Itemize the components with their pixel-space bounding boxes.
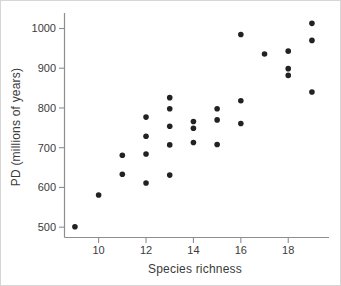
x-tick-label: 10 [93, 244, 105, 256]
data-point [143, 133, 149, 139]
y-tick-label: 900 [38, 62, 56, 74]
data-point [167, 123, 173, 129]
data-point [214, 142, 220, 148]
data-point [262, 51, 268, 57]
data-point [120, 152, 126, 158]
data-point [309, 38, 315, 44]
data-point [238, 32, 244, 38]
data-point [96, 192, 102, 198]
scatter-figure: 50060070080090010001012141618 PD (millio… [0, 0, 341, 286]
y-tick-label: 500 [38, 221, 56, 233]
data-point [143, 114, 149, 120]
data-point [309, 21, 315, 27]
data-point [191, 119, 197, 125]
x-tick-label: 16 [235, 244, 247, 256]
data-point [167, 106, 173, 112]
data-point [191, 125, 197, 131]
y-tick-label: 800 [38, 102, 56, 114]
data-point [285, 73, 291, 79]
y-tick-label: 600 [38, 181, 56, 193]
data-point [167, 95, 173, 101]
data-point [309, 89, 315, 95]
data-point [120, 172, 126, 178]
data-point [285, 66, 291, 72]
data-point [143, 180, 149, 186]
data-point [72, 224, 78, 230]
data-point [143, 151, 149, 157]
y-tick-label: 1000 [32, 22, 56, 34]
y-tick-label: 700 [38, 142, 56, 154]
data-point [167, 142, 173, 148]
x-tick-label: 14 [187, 244, 199, 256]
data-point [214, 106, 220, 112]
data-point [285, 48, 291, 54]
data-point [191, 140, 197, 146]
data-point [238, 98, 244, 104]
data-point [238, 121, 244, 127]
scatter-plot: 50060070080090010001012141618 [1, 1, 341, 286]
data-point [167, 172, 173, 178]
y-axis-title: PD (millions of years) [9, 68, 23, 186]
data-point [214, 117, 220, 123]
x-axis-title: Species richness [148, 262, 242, 276]
x-tick-label: 12 [140, 244, 152, 256]
x-tick-label: 18 [282, 244, 294, 256]
